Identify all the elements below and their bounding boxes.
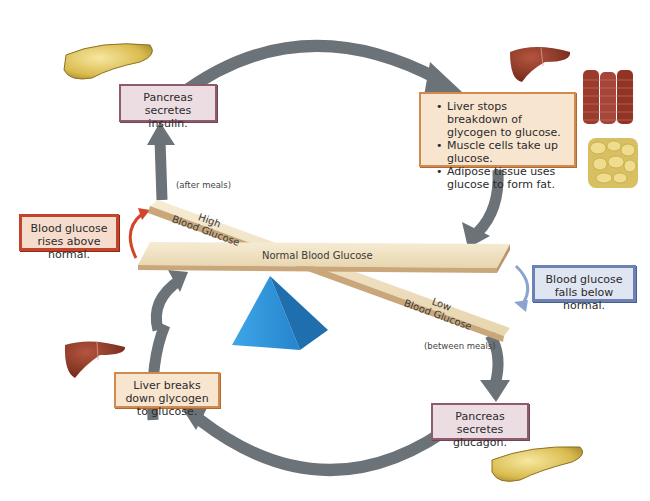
after-meals-label: (after meals) bbox=[176, 180, 231, 190]
normal-beam-label: Normal Blood Glucose bbox=[262, 250, 373, 261]
insulin-effect-item: Liver stops breakdown of glycogen to glu… bbox=[445, 100, 568, 139]
pancreas-icon-2 bbox=[492, 447, 583, 482]
normal-beam-label-text: Normal Blood Glucose bbox=[262, 250, 373, 261]
insulin-effects-box: Liver stops breakdown of glycogen to glu… bbox=[419, 92, 576, 167]
rise-stimulus-box: Blood glucose rises above normal. bbox=[19, 214, 119, 251]
liver-icon bbox=[510, 47, 570, 82]
glucagon-secretion-box: Pancreas secretes glucagon. bbox=[431, 403, 529, 440]
insulin-effect-item: Muscle cells take up glucose. bbox=[445, 139, 568, 165]
loop-arrow-top bbox=[180, 46, 462, 96]
glucagon-secretion-text: Pancreas secretes glucagon. bbox=[453, 410, 507, 449]
diagram-canvas: Pancreas secretes insulin. Liver stops b… bbox=[0, 0, 650, 501]
loop-arrow-bottom bbox=[180, 402, 460, 470]
fall-arrow bbox=[514, 266, 528, 312]
fulcrum-icon bbox=[232, 276, 328, 350]
glucagon-effect-box: Liver breaks down glycogen to glucose. bbox=[114, 372, 220, 408]
insulin-effects-list: Liver stops breakdown of glycogen to glu… bbox=[435, 100, 568, 191]
adipose-tissue-icon bbox=[588, 138, 638, 188]
fall-stimulus-box: Blood glucose falls below normal. bbox=[532, 265, 636, 302]
insulin-effect-item: Adipose tissue uses glucose to form fat. bbox=[445, 165, 568, 191]
muscle-tissue-icon bbox=[583, 70, 633, 124]
insulin-secretion-text: Pancreas secretes insulin. bbox=[143, 91, 192, 130]
glucagon-effect-text: Liver breaks down glycogen to glucose. bbox=[125, 379, 208, 418]
loop-arrow-left-up bbox=[147, 122, 175, 200]
pancreas-icon bbox=[64, 44, 152, 79]
insulin-secretion-box: Pancreas secretes insulin. bbox=[119, 84, 217, 122]
between-meals-label: (between meals) bbox=[424, 341, 496, 351]
